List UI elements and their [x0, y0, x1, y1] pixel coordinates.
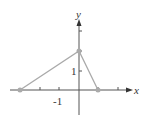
graph: x y -1 1: [0, 0, 143, 123]
point-c: [96, 88, 101, 93]
x-tick-label: -1: [53, 95, 62, 107]
x-axis-label: x: [133, 84, 139, 96]
x-axis-arrow-icon: [126, 88, 133, 93]
y-axis-label: y: [75, 8, 81, 20]
data-line: [20, 51, 98, 90]
y-tick-label: 1: [71, 65, 77, 77]
y-axis-arrow-icon: [77, 19, 82, 26]
point-a: [18, 88, 23, 93]
point-b: [77, 49, 82, 54]
